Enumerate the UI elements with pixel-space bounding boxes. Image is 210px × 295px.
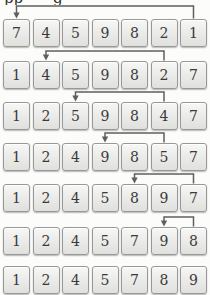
array-cell: 7 xyxy=(180,61,207,89)
array-cell: 2 xyxy=(33,143,60,171)
array-cell: 1 xyxy=(3,102,30,130)
swap-arrow-2 xyxy=(46,51,164,61)
array-cell: 2 xyxy=(151,61,178,89)
array-cell: 8 xyxy=(151,266,178,294)
array-cell: 7 xyxy=(180,143,207,171)
array-cell: 1 xyxy=(3,227,30,255)
array-cell: 7 xyxy=(121,227,148,255)
array-cell: 7 xyxy=(3,19,30,47)
swap-arrowhead-3 xyxy=(72,96,78,102)
array-row-2: 1459827 xyxy=(3,61,207,89)
swap-arrowhead-1 xyxy=(13,13,19,19)
array-cell: 8 xyxy=(121,102,148,130)
swap-arrowhead-2 xyxy=(43,55,49,61)
swap-arrow-5 xyxy=(135,174,194,184)
swap-arrow-4 xyxy=(105,133,164,143)
array-row-5: 1245897 xyxy=(3,184,207,212)
array-cell: 2 xyxy=(151,19,178,47)
array-cell: 9 xyxy=(151,184,178,212)
array-row-3: 1259847 xyxy=(3,102,207,130)
array-cell: 9 xyxy=(92,143,119,171)
array-cell: 5 xyxy=(62,102,89,130)
swap-arrow-1 xyxy=(17,6,194,19)
array-cell: 9 xyxy=(92,19,119,47)
array-cell: 2 xyxy=(33,184,60,212)
array-cell: 8 xyxy=(121,184,148,212)
array-cell: 4 xyxy=(62,227,89,255)
swap-arrowhead-6 xyxy=(161,221,167,227)
array-cell: 1 xyxy=(3,266,30,294)
array-cell: 8 xyxy=(180,227,207,255)
array-cell: 9 xyxy=(92,102,119,130)
array-cell: 8 xyxy=(121,19,148,47)
array-cell: 8 xyxy=(121,61,148,89)
array-cell: 9 xyxy=(151,227,178,255)
array-cell: 1 xyxy=(3,143,30,171)
array-row-1: 7459821 xyxy=(3,19,207,47)
array-cell: 2 xyxy=(33,266,60,294)
array-cell: 5 xyxy=(92,227,119,255)
array-cell: 2 xyxy=(33,227,60,255)
array-cell: 1 xyxy=(180,19,207,47)
array-cell: 5 xyxy=(92,266,119,294)
array-cell: 4 xyxy=(151,102,178,130)
array-cell: 2 xyxy=(33,102,60,130)
array-cell: 4 xyxy=(62,184,89,212)
array-cell: 4 xyxy=(33,61,60,89)
array-row-7: 1245789 xyxy=(3,266,207,294)
array-cell: 9 xyxy=(180,266,207,294)
array-cell: 1 xyxy=(3,184,30,212)
swap-arrow-6 xyxy=(164,217,194,227)
array-cell: 1 xyxy=(3,61,30,89)
clipped-title-text: ppg xyxy=(0,0,210,5)
array-cell: 7 xyxy=(121,266,148,294)
title-fragment-0: pp xyxy=(4,0,23,5)
array-cell: 5 xyxy=(151,143,178,171)
array-cell: 5 xyxy=(62,61,89,89)
array-cell: 9 xyxy=(92,61,119,89)
array-cell: 4 xyxy=(33,19,60,47)
array-cell: 5 xyxy=(62,19,89,47)
array-cell: 7 xyxy=(180,184,207,212)
swap-arrowhead-4 xyxy=(102,137,108,143)
array-row-4: 1249857 xyxy=(3,143,207,171)
array-cell: 4 xyxy=(62,266,89,294)
swap-arrowhead-5 xyxy=(131,178,137,184)
selection-sort-diagram: ppg 745982114598271259847124985712458971… xyxy=(0,0,210,295)
title-fragment-1: g xyxy=(53,0,63,5)
array-row-6: 1245798 xyxy=(3,227,207,255)
array-cell: 8 xyxy=(121,143,148,171)
swap-arrow-3 xyxy=(76,92,165,102)
array-cell: 4 xyxy=(62,143,89,171)
array-cell: 7 xyxy=(180,102,207,130)
array-cell: 5 xyxy=(92,184,119,212)
